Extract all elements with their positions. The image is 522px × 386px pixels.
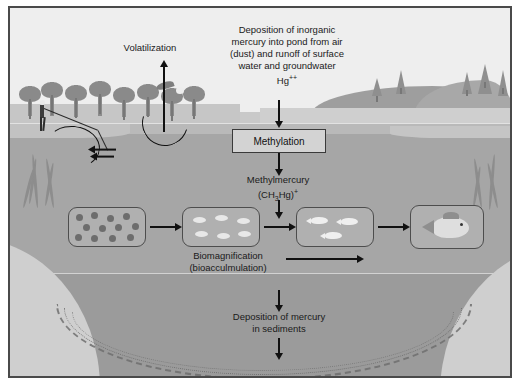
- sediment-arrow-bottom: [278, 338, 280, 354]
- sediment-line-2: in sediments: [208, 323, 350, 335]
- volatilization-label: Volatilization: [102, 42, 198, 54]
- deposition-label: Deposition of inorganic mercury into pon…: [202, 24, 372, 87]
- tree-icon: [98, 81, 102, 116]
- foodchain-arrow-1: [150, 226, 176, 228]
- mercury-charge: ++: [289, 74, 297, 81]
- biomagnification-line-2: (bioacculmulation): [170, 262, 286, 274]
- large-fish-box: [410, 205, 484, 249]
- fish-direction-arrow: [94, 149, 116, 151]
- sediment-line-1: Deposition of mercury: [208, 311, 350, 323]
- conifer-tree-icon: [478, 64, 492, 94]
- fish-direction-arrow-2: [96, 156, 114, 158]
- methylmercury-to-foodchain-arrow: [278, 200, 280, 213]
- tree-icon: [28, 86, 32, 116]
- methylation-label: Methylation: [253, 136, 304, 147]
- small-fish-box: [296, 207, 374, 247]
- deposition-line-3: (dust) and runoff of surface: [202, 48, 372, 60]
- mercury-symbol: Hg: [277, 75, 289, 86]
- larvae-box: [182, 207, 260, 247]
- conifer-tree-icon: [372, 78, 382, 96]
- conifer-tree-icon: [498, 70, 508, 96]
- methylation-to-methylmercury-arrow: [278, 153, 280, 170]
- formula-pre: (CH: [258, 189, 275, 200]
- deposition-to-methylation-arrow: [278, 100, 280, 122]
- formula-sup: +: [294, 188, 298, 195]
- shoreline-right: [390, 126, 512, 138]
- large-fish: [433, 217, 469, 238]
- deposition-line-4: water and groundwater: [202, 60, 372, 72]
- conifer-tree-icon: [396, 70, 406, 94]
- conifer-tree-icon: [462, 72, 472, 94]
- diagram-frame: Volatilization Deposition of inorganic m…: [8, 6, 512, 378]
- tree-icon: [74, 85, 78, 117]
- methylation-box: Methylation: [232, 129, 326, 153]
- formula-mid: Hg): [279, 189, 294, 200]
- bird-head: [176, 87, 184, 94]
- sediment-arrow-top: [278, 290, 280, 306]
- biomagnification-arrow: [286, 258, 358, 260]
- sediment-deposition-label: Deposition of mercury in sediments: [208, 311, 350, 335]
- deposition-line-1: Deposition of inorganic: [202, 24, 372, 36]
- deposition-line-2: mercury into pond from air: [202, 36, 372, 48]
- methylmercury-name: Methylmercury: [218, 174, 338, 186]
- tree-icon: [192, 86, 196, 116]
- foodchain-arrow-2: [264, 226, 290, 228]
- mercury-ion-label: Hg++: [202, 72, 372, 87]
- biomagnification-line-1: Biomagnification: [170, 250, 286, 262]
- tree-icon: [122, 87, 126, 117]
- biomagnification-label: Biomagnification (bioacculmulation): [170, 250, 286, 274]
- foodchain-arrow-3: [378, 226, 404, 228]
- plankton-box: [68, 207, 146, 247]
